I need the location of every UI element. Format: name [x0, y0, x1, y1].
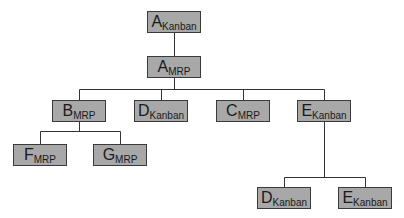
node-letter: C	[226, 103, 238, 119]
node-letter: F	[24, 147, 34, 163]
node-subscript: Kanban	[312, 111, 346, 121]
node-subscript: MRP	[238, 111, 260, 121]
node-a-mrp: AMRP	[147, 56, 201, 78]
node-g-mrp: GMRP	[93, 144, 147, 166]
node-subscript: Kanban	[150, 111, 184, 121]
node-letter: G	[103, 147, 115, 163]
node-letter: A	[158, 59, 169, 75]
node-d-kanban-1: DKanban	[134, 100, 188, 122]
node-c-mrp: CMRP	[216, 100, 270, 122]
node-e-kanban-2: EKanban	[338, 187, 392, 209]
node-e-kanban-1: EKanban	[297, 100, 351, 122]
node-d-kanban-2: DKanban	[257, 187, 311, 209]
node-a-kanban: AKanban	[147, 11, 201, 33]
node-letter: D	[261, 190, 273, 206]
node-subscript: Kanban	[353, 198, 387, 208]
node-letter: E	[301, 103, 312, 119]
node-subscript: MRP	[168, 67, 190, 77]
node-subscript: Kanban	[273, 198, 307, 208]
node-subscript: MRP	[34, 155, 56, 165]
node-b-mrp: BMRP	[52, 100, 106, 122]
node-subscript: MRP	[115, 155, 137, 165]
node-letter: A	[151, 14, 162, 30]
node-letter: D	[138, 103, 150, 119]
node-letter: E	[342, 190, 353, 206]
node-f-mrp: FMRP	[13, 144, 67, 166]
node-letter: B	[63, 103, 74, 119]
node-subscript: Kanban	[162, 22, 196, 32]
node-subscript: MRP	[73, 111, 95, 121]
